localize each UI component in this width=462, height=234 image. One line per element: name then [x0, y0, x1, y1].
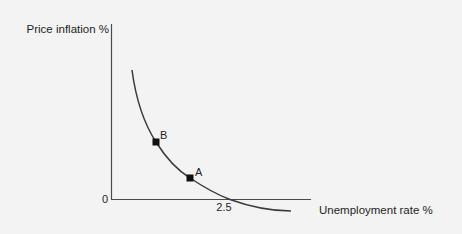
- x-tick-label: 2.5: [216, 201, 231, 213]
- origin-label: 0: [102, 193, 108, 205]
- x-axis-label: Unemployment rate %: [319, 204, 433, 216]
- point-a-marker: [187, 175, 194, 182]
- y-axis-label: Price inflation %: [27, 23, 109, 35]
- point-b-label: B: [160, 129, 167, 141]
- phillips-curve-chart: Price inflation % Unemployment rate % 0 …: [0, 0, 462, 234]
- point-a-label: A: [195, 166, 203, 178]
- point-b-marker: [153, 139, 160, 146]
